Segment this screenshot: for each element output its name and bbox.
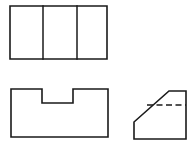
top-view <box>10 6 107 59</box>
top-view-fill <box>10 6 107 59</box>
front-view-fill <box>11 89 108 137</box>
drawing-sheet <box>0 0 196 152</box>
front-view <box>11 89 108 137</box>
orthographic-drawing-canvas <box>0 0 196 152</box>
side-view <box>134 91 186 139</box>
